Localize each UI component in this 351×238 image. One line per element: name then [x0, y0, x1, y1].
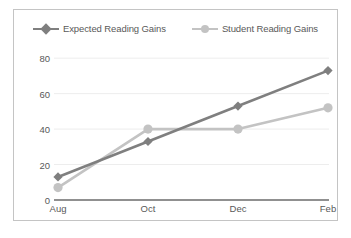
- chart-container: Expected Reading Gains Student Reading G…: [13, 9, 338, 221]
- series-line: [58, 108, 328, 188]
- data-point-marker: [233, 124, 242, 133]
- data-point-marker: [143, 137, 152, 146]
- data-point-marker: [143, 124, 152, 133]
- chart-svg: [14, 10, 339, 222]
- data-point-marker: [53, 183, 62, 192]
- y-axis-tick-label: 80: [24, 53, 50, 64]
- y-axis-tick-label: 60: [24, 88, 50, 99]
- x-axis-tick-label: Dec: [230, 203, 247, 214]
- x-axis-tick-label: Oct: [141, 203, 156, 214]
- data-point-marker: [323, 66, 332, 75]
- data-point-marker: [323, 103, 332, 112]
- data-point-marker: [53, 172, 62, 181]
- data-point-marker: [233, 101, 242, 110]
- series-line: [58, 71, 328, 177]
- y-axis-tick-label: 40: [24, 124, 50, 135]
- plot-area: 020406080AugOctDecFeb: [14, 10, 339, 222]
- x-axis-tick-label: Feb: [320, 203, 336, 214]
- y-axis-tick-label: 20: [24, 159, 50, 170]
- x-axis-tick-label: Aug: [50, 203, 67, 214]
- y-axis-tick-label: 0: [24, 195, 50, 206]
